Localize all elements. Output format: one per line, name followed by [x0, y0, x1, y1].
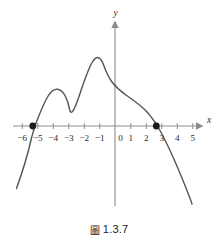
x-axis-arrow-icon	[196, 122, 204, 130]
x-tick-label: 3	[160, 133, 165, 143]
figure-container: −6 −5 −4 −3 −2 −1 0 1 2 3 4 5 x y 圖1.3.7	[0, 0, 218, 252]
x-tick-label: −3	[64, 133, 74, 143]
x-tick-label: 2	[144, 133, 149, 143]
function-curve	[17, 57, 193, 204]
plot-area: −6 −5 −4 −3 −2 −1 0 1 2 3 4 5 x y	[0, 0, 218, 218]
x-tick-label: 1	[129, 133, 134, 143]
figure-symbol-glyph: 圖	[90, 222, 100, 237]
x-tick-label-origin: 0	[118, 133, 123, 143]
x-tick-label: 5	[191, 133, 196, 143]
x-tick-label: −2	[79, 133, 89, 143]
x-tick-label: −4	[48, 133, 58, 143]
x-tick-label: −1	[95, 133, 105, 143]
y-axis-label: y	[112, 8, 118, 18]
x-tick-label: −5	[33, 133, 43, 143]
figure-caption: 圖1.3.7	[0, 222, 218, 237]
root-point-right	[153, 123, 160, 130]
x-tick-label: −6	[17, 133, 27, 143]
figure-number: 1.3.7	[103, 223, 128, 235]
graph-svg: −6 −5 −4 −3 −2 −1 0 1 2 3 4 5 x y	[0, 0, 218, 218]
x-axis-label: x	[206, 115, 212, 125]
x-tick-label: 4	[175, 133, 180, 143]
root-point-left	[29, 123, 36, 130]
y-axis-arrow-icon	[111, 21, 118, 29]
